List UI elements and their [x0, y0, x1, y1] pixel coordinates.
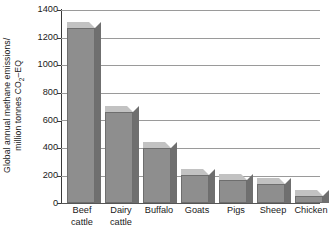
- bar-beef-cattle: [67, 28, 95, 203]
- bar-side-face: [209, 175, 215, 203]
- x-tick-label-dairy-cattle: Dairy cattle: [100, 205, 142, 228]
- gridline-1400: [61, 10, 320, 11]
- x-tick-label-buffalo: Buffalo: [138, 205, 180, 217]
- bar-pigs: [219, 180, 247, 203]
- y-tick-label-1200: 1200: [30, 33, 58, 42]
- bar-dairy-cattle: [105, 112, 133, 203]
- x-tick-label-pigs: Pigs: [215, 205, 257, 217]
- bar-side-face: [171, 148, 177, 203]
- x-tick-label-line-2: cattle: [61, 217, 103, 229]
- x-tick-label-goats: Goats: [176, 205, 218, 217]
- y-tick-label-0: 0: [30, 199, 58, 208]
- bar-front-face: [181, 175, 209, 203]
- bar-front-face: [295, 196, 323, 203]
- bar-front-face: [105, 112, 133, 203]
- y-axis-title-line-3: –EQ: [14, 60, 24, 78]
- x-tick-label-sheep: Sheep: [252, 205, 294, 217]
- x-tick-label-line-2: cattle: [100, 217, 142, 229]
- x-tick-label-line-1: Beef: [61, 205, 103, 217]
- bar-sheep: [257, 184, 285, 203]
- y-axis-tick-labels: 1400 1200 1000 800 600 400 200 0: [25, 0, 58, 238]
- x-tick-label-line-1: Goats: [176, 205, 218, 217]
- bar-side-face: [285, 184, 291, 203]
- x-tick-label-line-1: Chicken: [289, 205, 330, 217]
- y-axis-title-line-1: Global annual methane emissions/: [3, 37, 14, 172]
- x-axis-tick-labels: Beef cattle Dairy cattle Buffalo Goats P…: [61, 205, 330, 238]
- y-tick-label-1000: 1000: [30, 60, 58, 69]
- y-tick-label-1400: 1400: [30, 5, 58, 14]
- x-tick-label-line-1: Dairy: [100, 205, 142, 217]
- y-tick-label-600: 600: [30, 116, 58, 125]
- bar-side-face: [323, 196, 329, 203]
- bar-front-face: [143, 148, 171, 203]
- y-tick-label-800: 800: [30, 88, 58, 97]
- bar-front-face: [257, 184, 285, 203]
- plot-area: [61, 10, 320, 203]
- bar-front-face: [67, 28, 95, 203]
- x-axis-baseline: [61, 203, 320, 204]
- x-tick-label-chicken: Chicken: [289, 205, 330, 217]
- bar-goats: [181, 175, 209, 203]
- bar-chicken: [295, 196, 323, 203]
- x-tick-label-line-1: Sheep: [252, 205, 294, 217]
- y-axis-title-line-2-text: million tonnes CO: [14, 81, 24, 151]
- bar-buffalo: [143, 148, 171, 203]
- x-tick-label-line-1: Buffalo: [138, 205, 180, 217]
- y-tick-label-400: 400: [30, 143, 58, 152]
- x-tick-label-beef-cattle: Beef cattle: [61, 205, 103, 228]
- bar-front-face: [219, 180, 247, 203]
- bar-side-face: [95, 28, 101, 203]
- bar-side-face: [247, 180, 253, 203]
- bar-chart-figure: Global annual methane emissions/ million…: [0, 0, 330, 238]
- bar-side-face: [133, 112, 139, 203]
- y-tick-label-200: 200: [30, 171, 58, 180]
- x-tick-label-line-1: Pigs: [215, 205, 257, 217]
